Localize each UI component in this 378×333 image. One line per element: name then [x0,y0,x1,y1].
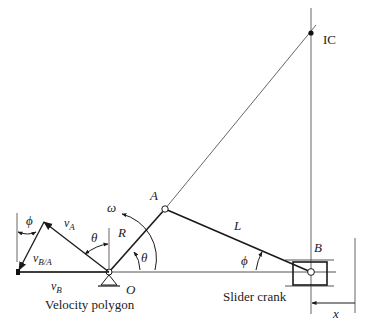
label-ic: IC [323,32,336,47]
caption-velocity-polygon: Velocity polygon [45,297,135,312]
ic-point [308,30,313,35]
phi-mechanism-arc [256,252,262,270]
label-rod-l: L [233,218,241,233]
caption-slider-crank: Slider crank [223,289,287,304]
label-x: x [332,306,339,321]
pin-b [308,269,315,276]
phi-polygon-arc [18,232,36,234]
pin-a [162,206,168,212]
label-v-a: vA [64,216,75,232]
theta-crank-arc [134,252,140,270]
label-point-b: B [314,240,322,255]
label-crank-r: R [117,225,126,240]
label-theta-crank: θ [141,250,148,265]
theta-polygon-arc [85,244,108,254]
v-a-vector [44,222,109,272]
label-v-ba: vB/A [33,251,52,267]
label-phi-mechanism: ϕ [241,253,248,268]
ground-support-icon [101,275,117,285]
slider-crank-diagram: IC A B O R L ω θ θ ϕ ϕ vA vB/A vB x Velo… [0,0,378,333]
label-omega: ω [107,200,116,215]
label-theta-polygon: θ [91,230,98,245]
label-point-o: O [126,282,136,297]
label-phi-polygon: ϕ [26,213,33,228]
label-v-b: vB [51,279,62,295]
label-point-a: A [149,188,158,203]
ic-extension-line [165,25,316,209]
v-b-vector-tip [16,269,20,275]
